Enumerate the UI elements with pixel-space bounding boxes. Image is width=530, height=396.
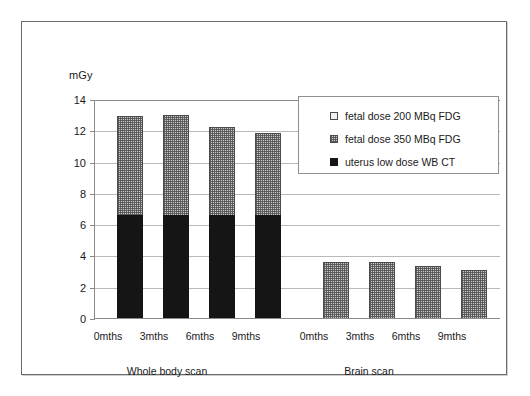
y-tick-0	[90, 319, 95, 320]
bar-segment-fetal-dose-350-mbq-fdg	[461, 270, 487, 318]
legend-item-label: fetal dose 200 MBq FDG	[345, 110, 461, 122]
black-square-icon	[330, 158, 338, 166]
x-group-label-wholebody: Whole body scan	[102, 365, 232, 377]
y-tick-label-4: 4	[80, 250, 86, 262]
y-axis-unit-label: mGy	[69, 69, 93, 81]
y-tick-label-14: 14	[74, 94, 86, 106]
y-tick-label-2: 2	[80, 282, 86, 294]
bar-segment-fetal-dose-350-mbq-fdg	[323, 262, 349, 318]
bar-segment-uterus-low-dose-wb-ct	[163, 215, 189, 318]
legend-item-label: uterus low dose WB CT	[345, 156, 455, 168]
y-tick-2	[90, 288, 95, 289]
chart-legend: fetal dose 200 MBq FDGfetal dose 350 MBq…	[298, 96, 499, 174]
x-category-label-brain-3mths: 3mths	[337, 330, 383, 342]
y-tick-14	[90, 100, 95, 101]
legend-item: fetal dose 350 MBq FDG	[330, 129, 498, 149]
gridline-8	[95, 194, 500, 195]
bar-wholebody-3mths	[163, 115, 189, 318]
x-group-label-brain: Brain scan	[304, 365, 434, 377]
figure-frame: mGy 02468101214 0mths3mths6mths9mthsWhol…	[21, 21, 507, 375]
dotted-grey-square-icon	[330, 135, 338, 143]
bar-wholebody-9mths	[255, 133, 281, 318]
x-category-label-brain-0mths: 0mths	[291, 330, 337, 342]
x-category-label-wholebody-9mths: 9mths	[223, 330, 269, 342]
x-category-label-brain-9mths: 9mths	[429, 330, 475, 342]
legend-item-label: fetal dose 350 MBq FDG	[345, 133, 461, 145]
x-category-label-brain-6mths: 6mths	[383, 330, 429, 342]
bar-brain-6mths	[415, 266, 441, 318]
bar-wholebody-0mths	[117, 116, 143, 318]
bar-brain-9mths	[461, 270, 487, 318]
bar-segment-uterus-low-dose-wb-ct	[117, 215, 143, 318]
bar-brain-3mths	[369, 262, 395, 318]
bar-segment-uterus-low-dose-wb-ct	[255, 215, 281, 318]
gridline-4	[95, 256, 500, 257]
y-tick-label-0: 0	[80, 313, 86, 325]
bar-segment-fetal-dose-350-mbq-fdg	[163, 115, 189, 215]
y-tick-label-8: 8	[80, 188, 86, 200]
y-tick-8	[90, 194, 95, 195]
y-tick-10	[90, 163, 95, 164]
white-square-icon	[330, 112, 338, 120]
y-tick-label-10: 10	[74, 157, 86, 169]
y-tick-4	[90, 256, 95, 257]
bar-segment-fetal-dose-350-mbq-fdg	[415, 266, 441, 318]
y-tick-label-6: 6	[80, 219, 86, 231]
gridline-6	[95, 225, 500, 226]
x-category-label-wholebody-3mths: 3mths	[131, 330, 177, 342]
bar-wholebody-6mths	[209, 127, 235, 318]
legend-item: uterus low dose WB CT	[330, 152, 498, 172]
bar-brain-0mths	[323, 262, 349, 318]
bar-segment-fetal-dose-350-mbq-fdg	[209, 127, 235, 215]
bar-segment-uterus-low-dose-wb-ct	[209, 215, 235, 318]
y-tick-label-12: 12	[74, 125, 86, 137]
y-tick-6	[90, 225, 95, 226]
bar-segment-fetal-dose-350-mbq-fdg	[255, 133, 281, 214]
y-tick-12	[90, 131, 95, 132]
legend-item: fetal dose 200 MBq FDG	[330, 106, 498, 126]
bar-segment-fetal-dose-350-mbq-fdg	[369, 262, 395, 318]
x-category-label-wholebody-6mths: 6mths	[177, 330, 223, 342]
bar-segment-fetal-dose-350-mbq-fdg	[117, 116, 143, 215]
x-category-label-wholebody-0mths: 0mths	[85, 330, 131, 342]
